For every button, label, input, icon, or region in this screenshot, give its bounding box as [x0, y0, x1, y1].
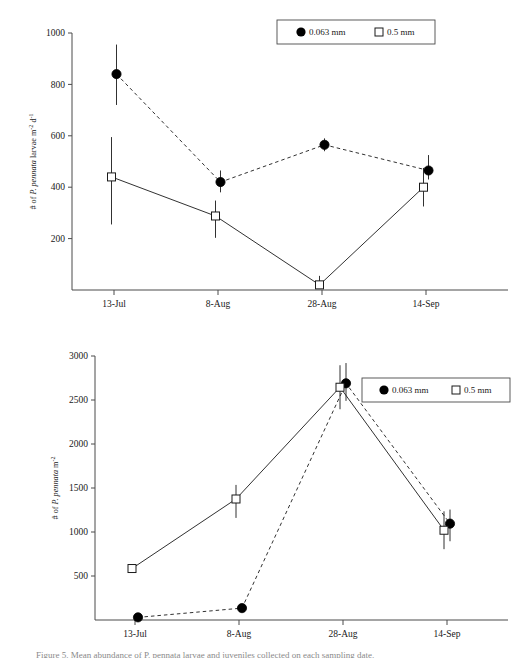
data-point-open-square [232, 495, 240, 503]
figure-caption: Figure 5. Mean abundance of P. pennata l… [0, 650, 516, 658]
figure-caption-strip: Figure 5. Mean abundance of P. pennata l… [0, 650, 516, 658]
legend-label: 0.5 mm [387, 27, 415, 37]
x-tick-label: 14-Sep [413, 299, 440, 309]
chart-panel-top: 200400600800100013-Jul8-Aug28-Aug14-Sep#… [0, 0, 516, 330]
series-line-0-5-mm [112, 177, 424, 285]
legend-marker-open-square [375, 28, 383, 36]
series-line-0-063-mm [117, 74, 429, 182]
y-tick-label: 400 [51, 182, 66, 192]
x-tick-label: 8-Aug [206, 299, 231, 309]
data-point-filled-circle [133, 613, 142, 622]
data-point-filled-circle [424, 166, 433, 175]
data-point-open-square [440, 526, 448, 534]
legend-label: 0.063 mm [392, 385, 429, 395]
legend-marker-filled-circle [379, 385, 388, 394]
y-tick-label: 500 [74, 571, 89, 581]
x-tick-label: 14-Sep [434, 629, 461, 639]
y-axis-title: # of P. pennata m-2 [50, 457, 60, 520]
x-tick-label: 13-Jul [123, 629, 147, 639]
y-tick-label: 1500 [69, 483, 88, 493]
y-tick-label: 3000 [69, 351, 88, 361]
data-point-filled-circle [237, 604, 246, 613]
data-point-open-square [108, 173, 116, 181]
y-tick-label: 600 [51, 131, 66, 141]
x-tick-label: 28-Aug [328, 629, 357, 639]
data-point-open-square [128, 565, 136, 573]
series-line-0-063-mm [138, 383, 450, 617]
legend-label: 0.5 mm [464, 385, 492, 395]
data-point-open-square [212, 212, 220, 220]
y-tick-label: 2500 [69, 395, 88, 405]
y-axis-title: # of P. pennata larvae m-2 d-1 [28, 113, 38, 209]
data-point-filled-circle [216, 177, 225, 186]
series-line-0-5-mm [132, 387, 444, 568]
data-point-open-square [420, 183, 428, 191]
y-tick-label: 800 [51, 80, 66, 90]
x-tick-label: 8-Aug [227, 629, 252, 639]
data-point-filled-circle [112, 70, 121, 79]
y-tick-label: 200 [51, 234, 66, 244]
chart-svg-bottom: 5001000150020002500300013-Jul8-Aug28-Aug… [0, 330, 516, 658]
data-point-filled-circle [320, 140, 329, 149]
data-point-open-square [336, 383, 344, 391]
y-tick-label: 1000 [46, 28, 65, 38]
chart-svg-top: 200400600800100013-Jul8-Aug28-Aug14-Sep#… [0, 0, 516, 330]
data-point-open-square [316, 281, 324, 289]
legend-label: 0.063 mm [309, 27, 346, 37]
figure-container: 200400600800100013-Jul8-Aug28-Aug14-Sep#… [0, 0, 516, 658]
y-tick-label: 1000 [69, 527, 88, 537]
x-tick-label: 28-Aug [307, 299, 336, 309]
legend-marker-open-square [452, 386, 460, 394]
x-tick-label: 13-Jul [102, 299, 126, 309]
chart-panel-bottom: 5001000150020002500300013-Jul8-Aug28-Aug… [0, 330, 516, 658]
y-tick-label: 2000 [69, 439, 88, 449]
legend-marker-filled-circle [296, 27, 305, 36]
